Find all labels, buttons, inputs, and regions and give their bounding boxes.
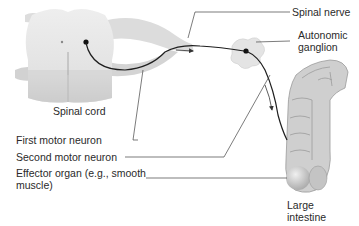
spinal-cord-illustration	[15, 9, 194, 102]
spinal-nerve-leader	[188, 12, 290, 38]
label-autonomic-ganglion-line1: Autonomic	[298, 29, 348, 41]
label-large-intestine-line1: Large	[287, 199, 314, 211]
label-autonomic-ganglion-line2: ganglion	[298, 41, 338, 53]
ganglion-leader	[256, 41, 290, 42]
label-first-motor-neuron: First motor neuron	[16, 134, 102, 146]
label-spinal-nerve: Spinal nerve	[292, 6, 350, 18]
large-intestine-illustration	[286, 60, 348, 192]
label-effector-organ-line1: Effector organ (e.g., smooth	[16, 167, 146, 179]
label-effector-organ-line2: muscle)	[16, 179, 53, 191]
second-motor-neuron-leader	[125, 75, 270, 157]
first-motor-neuron-leader	[133, 70, 143, 140]
label-spinal-cord: Spinal cord	[53, 105, 106, 117]
label-second-motor-neuron: Second motor neuron	[16, 151, 117, 163]
autonomic-ganglion-illustration	[231, 38, 265, 69]
label-large-intestine-line2: intestine	[287, 211, 326, 223]
